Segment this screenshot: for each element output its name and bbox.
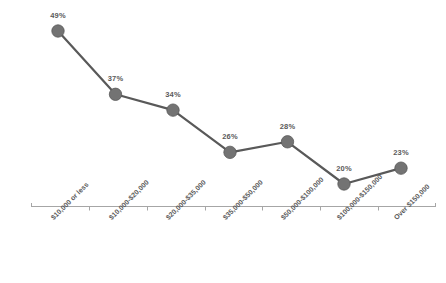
data-point-marker[interactable] [281, 136, 293, 148]
data-point-label: 26% [222, 133, 237, 141]
series-line [58, 31, 401, 184]
data-point-label: 28% [280, 123, 295, 131]
data-point-marker[interactable] [224, 146, 236, 158]
data-point-label: 23% [393, 149, 408, 157]
data-point-marker[interactable] [338, 178, 350, 190]
series-markers [52, 25, 407, 190]
data-point-label: 49% [50, 12, 65, 20]
chart-container: 49%37%34%26%28%20%23% $10,000 or less$10… [0, 0, 446, 283]
data-point-marker[interactable] [109, 88, 121, 100]
data-point-marker[interactable] [395, 162, 407, 174]
data-point-label: 37% [108, 75, 123, 83]
data-point-label: 34% [165, 91, 180, 99]
data-point-label: 20% [336, 165, 351, 173]
data-point-marker[interactable] [52, 25, 64, 37]
data-point-marker[interactable] [167, 104, 179, 116]
line-chart-plot [0, 0, 446, 283]
